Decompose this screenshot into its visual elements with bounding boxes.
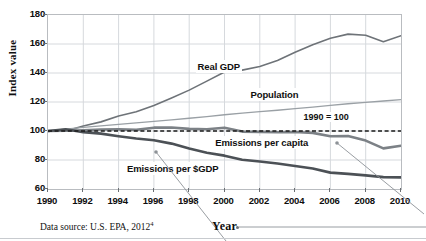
data-source-superscript: 4 [150,220,153,227]
x-tick-mark [82,188,83,192]
y-tick-label: 180 [15,8,45,19]
x-tick-label: 1996 [133,195,173,206]
series-label-emissions-per-gdp: Emissions per $GDP [125,162,221,175]
x-tick-label: 2006 [309,195,349,206]
y-tick-label: 100 [15,124,45,135]
x-tick-mark [153,188,154,192]
x-tick-label: 1990 [27,195,67,206]
x-tick-label: 1998 [168,195,208,206]
series-label-emissions-per-capita: Emissions per capita [213,136,310,149]
y-tick-label: 80 [15,153,45,164]
y-tick-label: 140 [15,66,45,77]
data-source-note: Data source: U.S. EPA, 20124 [40,220,153,232]
x-tick-mark [118,188,119,192]
series-label-population: Population [248,88,300,101]
x-tick-mark [188,188,189,192]
x-tick-mark [224,188,225,192]
y-tick-mark [43,101,47,102]
x-tick-mark [400,188,401,192]
x-tick-mark [294,188,295,192]
plot-area [47,14,402,190]
annotation-reference-label: 1990 = 100 [301,112,350,122]
data-source-text: Data source: U.S. EPA, 2012 [40,222,150,232]
y-tick-mark [43,14,47,15]
y-tick-label: 120 [15,95,45,106]
x-tick-label: 2010 [380,195,420,206]
top-edge-artifact [0,0,426,6]
x-tick-mark [259,188,260,192]
x-tick-label: 1994 [98,195,138,206]
x-tick-label: 2008 [345,195,385,206]
series-label-real-gdp: Real GDP [196,60,243,73]
x-tick-label: 2002 [239,195,279,206]
y-tick-mark [43,72,47,73]
x-tick-label: 2000 [204,195,244,206]
y-tick-label: 60 [15,182,45,193]
x-tick-label: 1992 [62,195,102,206]
year-callout-label: Year [212,219,237,234]
y-tick-mark [43,130,47,131]
y-tick-label: 160 [15,37,45,48]
y-tick-mark [43,43,47,44]
series-lines [48,15,401,189]
x-tick-label: 2004 [274,195,314,206]
x-tick-mark [329,188,330,192]
y-tick-mark [43,159,47,160]
figure-panel: Index value 6080100120140160180 19901992… [0,0,426,241]
x-tick-mark [365,188,366,192]
bottom-divider [0,238,426,239]
year-callout-dot [236,226,239,229]
x-tick-mark [47,188,48,192]
